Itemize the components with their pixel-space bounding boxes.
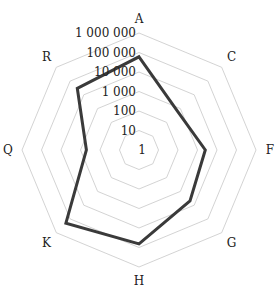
radial-tick-label: 1 000 000	[75, 26, 136, 40]
radar-chart: 1101001 00010 000100 0001 000 000 ACFGHK…	[0, 0, 279, 295]
radial-tick-label: 1 000	[102, 85, 136, 99]
radial-tick-label: 100 000	[86, 46, 136, 60]
axis-label-g: G	[227, 236, 237, 250]
axis-label-c: C	[227, 50, 236, 64]
axis-label-f: F	[266, 143, 274, 157]
axis-label-a: A	[134, 12, 144, 26]
axis-label-k: K	[42, 236, 52, 250]
radial-tick-label: 100	[113, 104, 136, 118]
radial-tick-label: 10	[121, 124, 136, 138]
axis-label-q: Q	[3, 143, 13, 157]
axis-label-r: R	[42, 50, 52, 64]
axis-label-h: H	[134, 274, 144, 288]
radial-tick-label: 1	[138, 143, 146, 157]
radial-tick-label: 10 000	[94, 65, 136, 79]
